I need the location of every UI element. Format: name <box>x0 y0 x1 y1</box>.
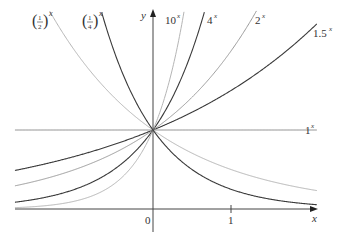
origin-label: 0 <box>145 214 151 226</box>
svg-text:1: 1 <box>38 14 42 22</box>
svg-text:x: x <box>310 122 315 130</box>
svg-text:4: 4 <box>207 14 213 26</box>
svg-text:x: x <box>176 12 181 20</box>
curve-2-x <box>15 11 256 186</box>
svg-text:x: x <box>48 9 53 18</box>
label-half-x: ( 1 2 ) x <box>32 9 53 31</box>
label-ten-x: 10 x <box>165 12 181 26</box>
x-axis-label: x <box>311 212 317 224</box>
label-quarter-x: ( 1 4 ) x <box>82 9 103 31</box>
svg-text:x: x <box>98 9 103 18</box>
svg-text:(: ( <box>82 12 87 30</box>
label-onefive-x: 1.5 x <box>313 25 333 39</box>
svg-text:1: 1 <box>305 124 311 136</box>
label-four-x: 4 x <box>207 12 218 26</box>
x-tick-label-1: 1 <box>228 214 234 226</box>
svg-text:10: 10 <box>165 14 177 26</box>
svg-text:x: x <box>261 12 266 20</box>
exponential-functions-chart: 0 1 x y ( 1 2 ) x ( 1 4 ) x 10 x 4 x 2 x… <box>0 0 348 238</box>
svg-text:1.5: 1.5 <box>313 27 327 39</box>
label-one-x: 1 x <box>305 122 315 136</box>
svg-text:): ) <box>43 12 48 30</box>
svg-text:x: x <box>213 12 218 20</box>
y-axis-arrow-icon <box>150 9 156 17</box>
svg-text:2: 2 <box>38 23 42 31</box>
curve-4-x <box>15 12 204 202</box>
svg-text:): ) <box>93 12 98 30</box>
svg-text:(: ( <box>32 12 37 30</box>
curve-1-5-x <box>15 24 317 171</box>
label-two-x: 2 x <box>255 12 266 26</box>
svg-text:4: 4 <box>88 23 92 31</box>
svg-text:x: x <box>328 25 333 33</box>
curve--1-4-x <box>102 12 317 204</box>
svg-text:1: 1 <box>88 14 92 22</box>
y-axis-label: y <box>140 9 146 21</box>
curves-group <box>15 11 317 208</box>
svg-text:2: 2 <box>255 14 261 26</box>
